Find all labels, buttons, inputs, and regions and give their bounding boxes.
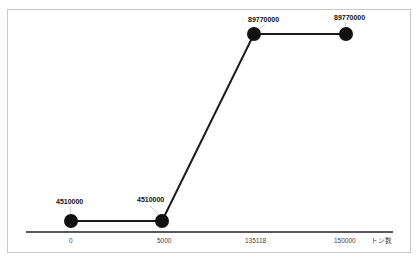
data-label-2: 89770000 (248, 16, 279, 23)
leader-line (70, 206, 71, 215)
data-label-0: 4510000 (56, 198, 83, 205)
x-tick-label: 135118 (245, 237, 267, 244)
x-tick-label: 150000 (334, 237, 356, 244)
x-axis-unit-label: トン数 (371, 236, 392, 245)
data-point-1[interactable] (155, 214, 169, 228)
x-tick-label: 5000 (157, 237, 172, 244)
x-tick-label: 0 (69, 237, 73, 244)
data-label-1: 4510000 (137, 196, 164, 203)
data-point-3[interactable] (339, 27, 353, 41)
series-line (71, 34, 346, 221)
line-chart: 4510000 4510000 89770000 89770000 0 5000… (0, 0, 418, 261)
data-point-2[interactable] (247, 27, 261, 41)
data-label-3: 89770000 (334, 14, 365, 21)
leader-line (150, 206, 160, 216)
data-point-0[interactable] (64, 214, 78, 228)
